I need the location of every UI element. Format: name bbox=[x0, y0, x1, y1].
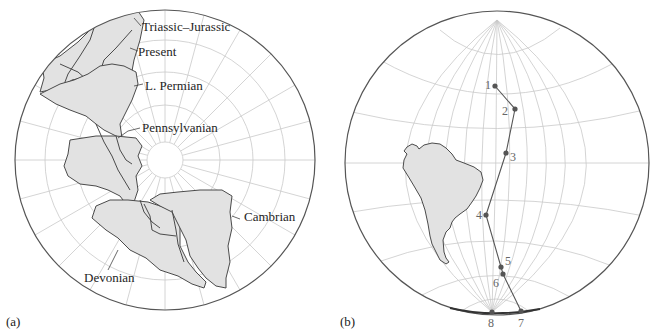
point-8 bbox=[489, 309, 494, 314]
label-devonian: Devonian bbox=[84, 270, 135, 285]
panel-b-graticule bbox=[344, 20, 650, 312]
point-6 bbox=[500, 271, 505, 276]
point-label-7: 7 bbox=[518, 316, 524, 330]
point-1 bbox=[492, 83, 497, 88]
point-3 bbox=[503, 150, 508, 155]
point-7 bbox=[518, 308, 523, 313]
label-pennsylvanian: Pennsylvanian bbox=[142, 120, 218, 135]
point-5 bbox=[498, 264, 503, 269]
figure: Triassic–Jurassic Present L. Permian Pen… bbox=[0, 0, 654, 336]
point-label-2: 2 bbox=[502, 104, 508, 118]
point-label-4: 4 bbox=[476, 208, 482, 222]
point-4 bbox=[483, 212, 488, 217]
label-l-permian: L. Permian bbox=[145, 78, 203, 93]
point-2 bbox=[512, 106, 517, 111]
continent-pennsylvanian bbox=[64, 136, 142, 204]
panel-b-globe: 1 2 3 4 5 6 7 8 (b) bbox=[340, 11, 650, 330]
point-label-3: 3 bbox=[510, 150, 516, 164]
label-cambrian: Cambrian bbox=[244, 209, 296, 224]
path-points bbox=[483, 83, 523, 314]
label-present: Present bbox=[138, 44, 177, 59]
point-label-5: 5 bbox=[505, 254, 511, 268]
point-label-1: 1 bbox=[485, 78, 491, 92]
point-label-6: 6 bbox=[493, 276, 499, 290]
label-triassic-jurassic: Triassic–Jurassic bbox=[142, 19, 231, 34]
point-label-8: 8 bbox=[488, 316, 494, 330]
panel-a-polar-map: Triassic–Jurassic Present L. Permian Pen… bbox=[6, 2, 320, 329]
panel-b-label: (b) bbox=[340, 314, 355, 329]
panel-a-label: (a) bbox=[6, 314, 20, 329]
